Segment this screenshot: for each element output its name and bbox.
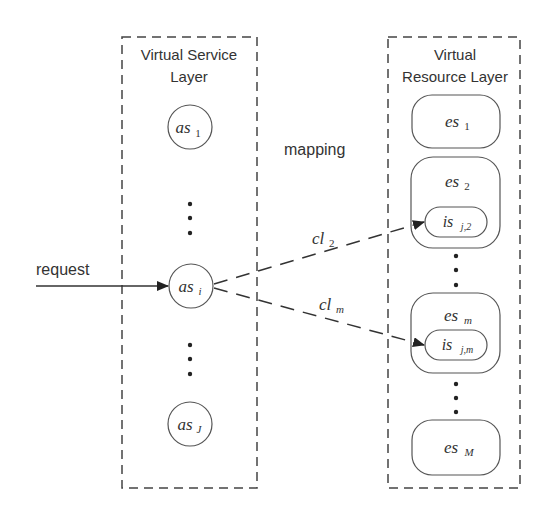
virtual-resource-layer: Virtual Resource Layer es 1 es 2 is j,2: [388, 37, 520, 488]
service-layer-title-2: Layer: [170, 68, 208, 85]
node-subscript: i: [198, 285, 201, 297]
edge-server-es2[interactable]: es 2 is j,2: [411, 157, 500, 248]
instance-subscript: j,m: [459, 344, 474, 355]
request-arrow: request: [36, 261, 168, 286]
ellipsis-dots: [454, 254, 458, 287]
edge-server-label: es: [444, 438, 459, 457]
instance-label: is: [442, 336, 453, 353]
service-node-as1[interactable]: as 1: [168, 105, 212, 149]
service-node-asJ[interactable]: as J: [168, 402, 212, 446]
edge-server-es1[interactable]: es 1: [412, 95, 500, 148]
mapping-label: mapping: [284, 141, 345, 158]
edge-server-esM[interactable]: es M: [412, 420, 500, 475]
instance-subscript: j,2: [459, 221, 471, 232]
ellipsis-dots: [454, 382, 458, 414]
node-subscript: 1: [195, 127, 201, 139]
edge-server-label: es: [444, 306, 459, 325]
edge-server-subscript: m: [464, 314, 472, 326]
edge-server-label: es: [445, 172, 460, 191]
edge-server-label: es: [445, 112, 460, 131]
edge-server-esm[interactable]: es m is j,m: [411, 293, 500, 373]
node-label: as: [178, 277, 194, 296]
resource-layer-title-1: Virtual: [434, 46, 476, 63]
edge-server-subscript: M: [463, 446, 474, 458]
link-cl2: cl 2: [214, 222, 424, 284]
link-label: cl: [319, 295, 332, 314]
instance-is-jm[interactable]: is j,m: [425, 330, 487, 360]
service-layer-title-1: Virtual Service: [141, 46, 237, 63]
link-subscript: 2: [329, 237, 335, 249]
ellipsis-dots: [188, 202, 192, 235]
diagram-canvas: Virtual Service Layer as 1 as i as J: [0, 0, 554, 519]
resource-layer-title-2: Resource Layer: [402, 68, 508, 85]
node-label: as: [175, 118, 191, 137]
link-clm: cl m: [214, 288, 424, 345]
link-subscript: m: [336, 303, 344, 315]
node-label: as: [177, 415, 193, 434]
edge-server-subscript: 2: [464, 180, 470, 192]
instance-is-j2[interactable]: is j,2: [425, 207, 487, 237]
ellipsis-dots: [188, 343, 192, 376]
link-label: cl: [312, 229, 325, 248]
instance-label: is: [443, 213, 454, 230]
edge-server-subscript: 1: [464, 120, 470, 132]
request-label: request: [36, 261, 90, 278]
service-node-asi[interactable]: as i: [169, 264, 213, 308]
virtual-service-layer: Virtual Service Layer as 1 as i as J: [122, 37, 257, 488]
